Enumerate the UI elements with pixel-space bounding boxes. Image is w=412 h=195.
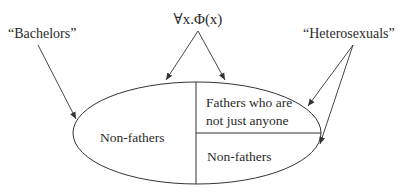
region-left-label: Non-fathers: [100, 130, 164, 145]
arrow-heterosexuals-lower: [320, 45, 353, 144]
heterosexuals-label: “Heterosexuals”: [303, 26, 395, 41]
arrow-top-right: [198, 31, 225, 80]
top-label: ∀x.Φ(x): [174, 11, 223, 28]
arrow-top-left: [166, 31, 198, 80]
region-lower-right-label: Non-fathers: [207, 149, 271, 164]
region-upper-right-line2: not just anyone: [206, 113, 289, 128]
arrow-bachelors: [38, 45, 76, 119]
diagram-canvas: ∀x.Φ(x) “Bachelors” “Heterosexuals” Non-…: [0, 0, 412, 195]
region-upper-right-line1: Fathers who are: [206, 95, 292, 110]
arrow-heterosexuals-upper: [308, 45, 353, 106]
bachelors-label: “Bachelors”: [8, 26, 76, 41]
